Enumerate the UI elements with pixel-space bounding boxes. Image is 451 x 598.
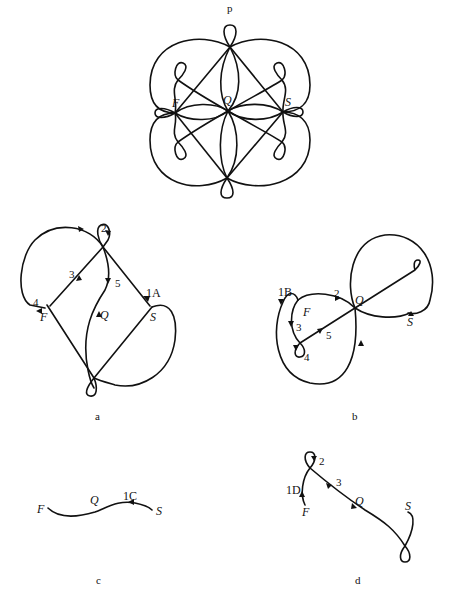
caption-c: c: [96, 574, 101, 586]
c-label-S: S: [156, 504, 162, 518]
d-step-1D: 1D: [286, 483, 301, 497]
d-step-2: 2: [319, 455, 325, 467]
a-loop-bottom: [87, 378, 97, 396]
label-Q: Q: [223, 93, 232, 107]
curl-left-link-bottom: [174, 113, 178, 142]
a-label-S: S: [150, 310, 156, 324]
d-label-Q: Q: [355, 494, 364, 508]
b-arc-1B: [276, 294, 355, 385]
outer-lobe-bottom-right: [227, 112, 310, 186]
d-loop-bottom: [400, 546, 409, 562]
b-arc-QS: [355, 308, 410, 317]
c-step-1C: 1C: [123, 489, 137, 503]
caption-d: d: [355, 574, 361, 586]
d-step-3: 3: [336, 476, 342, 488]
a-step-3: 3: [69, 268, 75, 280]
loop-top: [224, 25, 236, 47]
caption-a: a: [95, 410, 100, 422]
a-step-4: 4: [33, 296, 39, 308]
a-arrow-5: [105, 278, 111, 284]
figure-a: 2 3 4 5 1A F Q S a: [21, 222, 176, 422]
a-edge-1A: [103, 247, 150, 306]
a-label-F: F: [39, 310, 48, 324]
b-label-S: S: [407, 315, 413, 329]
b-arrow-up: [358, 340, 364, 346]
a-edge-F-bottom: [47, 305, 94, 378]
curl-right-link-bottom: [282, 112, 286, 142]
b-step-1B: 1B: [278, 285, 292, 299]
d-arrow-2: [311, 456, 317, 461]
figure-top: F Q S: [150, 25, 310, 198]
figure-d: 1D 2 3 F Q S d: [286, 452, 413, 586]
a-label-Q: Q: [100, 308, 109, 322]
a-step-2: 2: [101, 222, 107, 234]
c-curve: [48, 502, 152, 516]
b-step-4: 4: [304, 351, 310, 363]
b-line-Q-loop: [355, 260, 420, 308]
b-label-Q: Q: [355, 293, 364, 307]
d-hook-S: [405, 512, 413, 546]
c-label-F: F: [36, 502, 45, 516]
d-curve-1D: [302, 468, 310, 505]
b-step-2: 2: [334, 287, 340, 299]
page-mark: p: [227, 2, 233, 14]
a-step-1A: 1A: [146, 286, 161, 300]
figure-c: F Q 1C S c: [36, 489, 162, 586]
diagram-canvas: p F Q S: [0, 0, 451, 598]
a-edge-3: [50, 247, 103, 306]
b-step-5: 5: [326, 329, 332, 341]
b-step-3: 3: [296, 321, 302, 333]
figure-b: 1B 2 3 4 5 F Q S b: [276, 235, 432, 422]
edge-bottom-S: [227, 112, 283, 178]
d-label-F: F: [301, 505, 310, 519]
outer-lobe-bottom-left: [150, 113, 227, 186]
edge-bottom-F: [175, 113, 227, 178]
a-step-5: 5: [115, 277, 121, 289]
label-F: F: [171, 96, 180, 110]
d-label-S: S: [405, 499, 411, 513]
c-label-Q: Q: [90, 493, 99, 507]
b-label-F: F: [302, 305, 311, 319]
edge-top-S: [230, 47, 283, 112]
caption-b: b: [352, 410, 358, 422]
outer-lobe-top-left: [150, 39, 230, 113]
outer-lobe-top-right: [230, 39, 310, 112]
b-arrow-3: [288, 321, 294, 327]
edge-top-F: [175, 47, 230, 113]
label-S: S: [285, 95, 291, 109]
b-arrow-4: [293, 345, 299, 351]
